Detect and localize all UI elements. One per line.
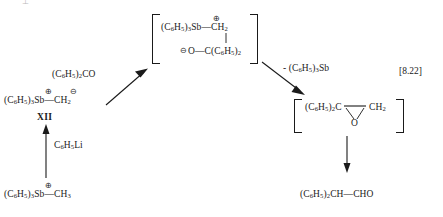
product-formula: (C6H5)2CH—CHO (300, 189, 374, 199)
arrow-epoxide-to-product (0, 0, 443, 217)
equation-number: [8.22] (399, 66, 422, 76)
